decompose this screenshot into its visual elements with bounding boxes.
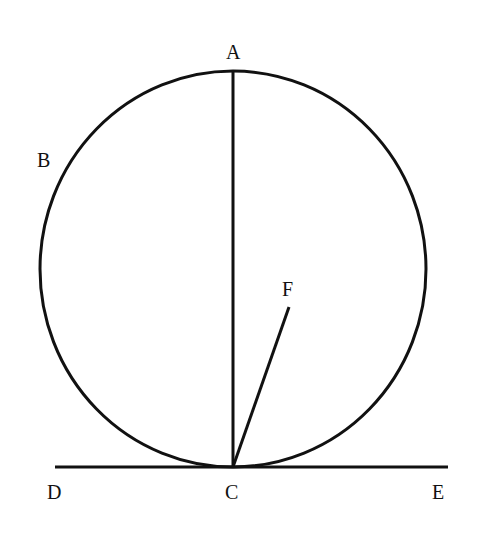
label-f: F — [282, 278, 293, 300]
label-c: C — [225, 481, 238, 503]
label-e: E — [432, 481, 444, 503]
label-d: D — [47, 481, 61, 503]
label-b: B — [37, 149, 50, 171]
geometry-diagram: A B F D C E — [0, 0, 489, 538]
label-a: A — [226, 41, 241, 63]
segment-cf — [233, 307, 289, 467]
